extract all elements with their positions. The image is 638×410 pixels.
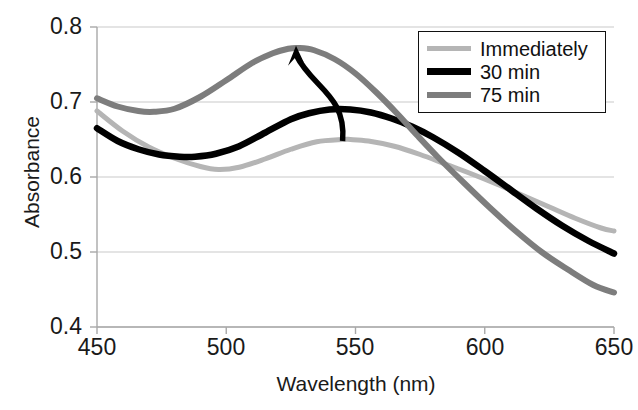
- trend-arrow-shaft: [296, 55, 343, 141]
- legend-label-30-min: 30 min: [480, 62, 540, 82]
- x-tick-label-2: 550: [320, 336, 390, 359]
- legend-item-30-min: 30 min: [427, 60, 597, 83]
- legend-item-immediately: Immediately: [427, 37, 597, 60]
- legend-item-75-min: 75 min: [427, 83, 597, 106]
- x-tick-label-3: 600: [450, 336, 520, 359]
- series-line-30-min: [97, 109, 614, 253]
- series-line-immediately: [97, 111, 614, 231]
- legend-swatch-30-min: [427, 68, 471, 75]
- legend: Immediately 30 min 75 min: [418, 31, 606, 113]
- x-axis-title: Wavelength (nm): [97, 372, 615, 396]
- legend-label-75-min: 75 min: [480, 85, 540, 105]
- y-axis-title: Absorbance: [20, 62, 44, 282]
- legend-label-immediately: Immediately: [480, 39, 588, 59]
- y-tick-label-0: 0.8: [20, 15, 82, 38]
- legend-swatch-immediately: [427, 46, 471, 51]
- x-tick-label-0: 450: [62, 336, 132, 359]
- absorbance-spectrum-chart: 0.8 0.7 0.6 0.5 0.4 450 500 550 600 650 …: [0, 0, 638, 410]
- x-tick-label-1: 500: [191, 336, 261, 359]
- x-tick-label-4: 650: [579, 336, 638, 359]
- legend-swatch-75-min: [427, 92, 471, 98]
- y-tick-label-4: 0.4: [20, 315, 82, 338]
